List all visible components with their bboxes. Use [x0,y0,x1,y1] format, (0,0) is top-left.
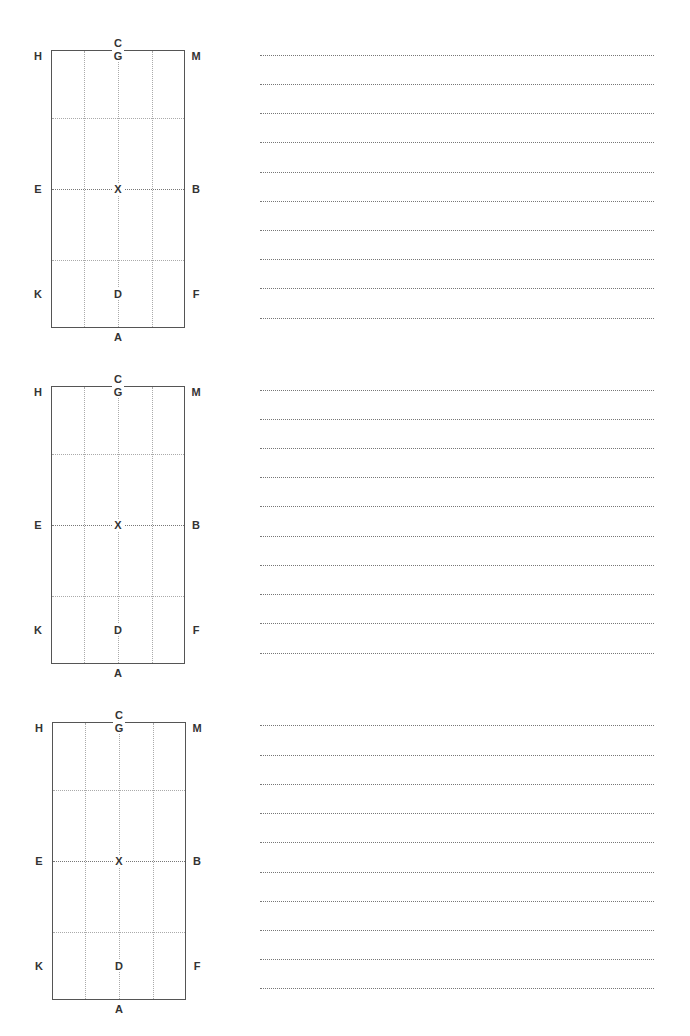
writing-line[interactable] [260,84,654,85]
writing-line[interactable] [260,842,654,843]
grid-line [53,790,185,791]
marker-d: D [113,960,125,972]
writing-line[interactable] [260,448,654,449]
marker-d: D [112,624,124,636]
arena-block-3: C A H E K M B F G X D [1,672,690,1008]
marker-f: F [186,624,206,636]
writing-line[interactable] [260,506,654,507]
marker-c: C [109,709,129,721]
writing-line[interactable] [260,901,654,902]
marker-x: X [113,855,125,867]
grid-line [52,596,184,597]
marker-g: G [112,50,124,62]
marker-h: H [28,386,48,398]
writing-line[interactable] [260,755,654,756]
marker-d: D [112,288,124,300]
writing-line[interactable] [260,419,654,420]
writing-line[interactable] [260,201,654,202]
marker-m: M [186,386,206,398]
writing-line[interactable] [260,959,654,960]
grid-line [52,260,184,261]
marker-m: M [187,722,207,734]
marker-b: B [186,519,206,531]
marker-a: A [109,1003,129,1015]
writing-line[interactable] [260,784,654,785]
writing-line[interactable] [260,623,654,624]
marker-c: C [108,373,128,385]
writing-line[interactable] [260,230,654,231]
marker-e: E [29,855,49,867]
writing-line[interactable] [260,725,654,726]
writing-line[interactable] [260,113,654,114]
writing-line[interactable] [260,55,654,56]
marker-e: E [28,519,48,531]
marker-m: M [186,50,206,62]
marker-k: K [29,960,49,972]
writing-line[interactable] [260,930,654,931]
writing-line[interactable] [260,259,654,260]
marker-x: X [112,519,124,531]
marker-g: G [113,722,125,734]
marker-k: K [28,624,48,636]
marker-f: F [187,960,207,972]
marker-b: B [186,183,206,195]
marker-g: G [112,386,124,398]
marker-e: E [28,183,48,195]
writing-line[interactable] [260,390,654,391]
writing-line[interactable] [260,288,654,289]
marker-k: K [28,288,48,300]
writing-line[interactable] [260,172,654,173]
writing-line[interactable] [260,318,654,319]
marker-b: B [187,855,207,867]
grid-line [53,932,185,933]
writing-line[interactable] [260,142,654,143]
marker-c: C [108,37,128,49]
grid-line [52,118,184,119]
marker-h: H [29,722,49,734]
writing-line[interactable] [260,813,654,814]
marker-h: H [28,50,48,62]
arena-block-1: C A H E K M B F G X D [0,0,690,336]
writing-line[interactable] [260,565,654,566]
writing-line[interactable] [260,594,654,595]
marker-f: F [186,288,206,300]
arena-block-2: C A H E K M B F G X D [0,336,690,672]
marker-x: X [112,183,124,195]
writing-line[interactable] [260,653,654,654]
writing-line[interactable] [260,872,654,873]
grid-line [52,454,184,455]
writing-line[interactable] [260,477,654,478]
writing-line[interactable] [260,988,654,989]
writing-line[interactable] [260,536,654,537]
